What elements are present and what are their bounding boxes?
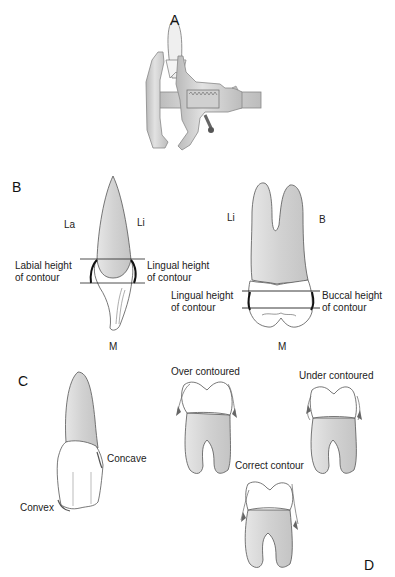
molar-correct-contour bbox=[241, 482, 298, 568]
label-labial-height-1: Labial height bbox=[15, 260, 72, 271]
panel-label-b: B bbox=[12, 180, 21, 194]
label-lingual-height-2: of contour bbox=[147, 272, 191, 283]
molar-diagram bbox=[242, 183, 320, 327]
dental-contour-figure: A B C D La Li Labial height of contour L… bbox=[0, 0, 395, 577]
figure-artwork bbox=[0, 0, 395, 577]
incisor-contour-diagram bbox=[57, 372, 103, 511]
label-molar-lingual-height-2: of contour bbox=[171, 302, 215, 313]
label-over-contoured: Over contoured bbox=[171, 366, 240, 377]
label-correct-contour: Correct contour bbox=[235, 460, 304, 471]
label-under-contoured: Under contoured bbox=[299, 370, 374, 381]
label-buccal-height-1: Buccal height bbox=[322, 290, 382, 301]
label-molar-lingual-height-1: Lingual height bbox=[171, 290, 233, 301]
label-mesial-molar: M bbox=[278, 341, 286, 352]
panel-label-a: A bbox=[170, 13, 179, 27]
label-lingual-side: Li bbox=[137, 217, 145, 228]
panel-label-d: D bbox=[364, 558, 374, 572]
label-lingual-height-1: Lingual height bbox=[147, 260, 209, 271]
panel-label-c: C bbox=[18, 374, 28, 388]
label-concave: Concave bbox=[107, 453, 146, 464]
label-mesial-incisor: M bbox=[109, 341, 117, 352]
molar-over-contoured bbox=[176, 382, 237, 474]
molar-under-contoured bbox=[306, 387, 362, 474]
label-labial-height-2: of contour bbox=[15, 272, 59, 283]
caliper-gauge bbox=[146, 20, 261, 150]
label-molar-lingual-side: Li bbox=[227, 212, 235, 223]
incisor-diagram bbox=[80, 176, 145, 330]
label-convex: Convex bbox=[20, 502, 54, 513]
label-labial-side: La bbox=[64, 219, 75, 230]
label-buccal-height-2: of contour bbox=[322, 302, 366, 313]
label-molar-buccal-side: B bbox=[319, 214, 326, 225]
